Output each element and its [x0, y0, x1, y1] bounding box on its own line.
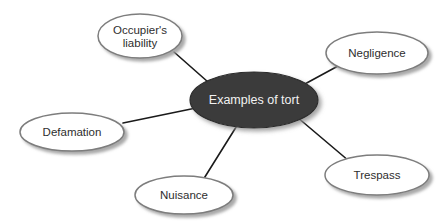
connector-nuisance — [203, 124, 238, 180]
node-shape-trespass — [325, 155, 429, 195]
node-center-examples-of-tort[interactable]: Examples of tort — [190, 72, 318, 128]
center-node-shape — [190, 72, 318, 128]
node-shape-negligence — [326, 32, 428, 74]
node-shape-defamation — [20, 113, 124, 151]
node-negligence[interactable]: Negligence — [326, 32, 428, 74]
node-shape-occupiers-liability — [98, 14, 182, 58]
connector-occupiers-liability — [174, 52, 208, 82]
node-shape-nuisance — [135, 176, 233, 214]
node-defamation[interactable]: Defamation — [20, 113, 124, 151]
tort-mind-map: Occupier'sliability Negligence Trespass … — [0, 0, 441, 223]
connector-negligence — [303, 66, 338, 85]
connector-defamation — [123, 108, 196, 123]
node-trespass[interactable]: Trespass — [325, 155, 429, 195]
node-nuisance[interactable]: Nuisance — [135, 176, 233, 214]
connector-trespass — [297, 117, 349, 161]
node-occupiers-liability[interactable]: Occupier'sliability — [98, 14, 182, 58]
diagram-canvas: Occupier'sliability Negligence Trespass … — [0, 0, 441, 223]
